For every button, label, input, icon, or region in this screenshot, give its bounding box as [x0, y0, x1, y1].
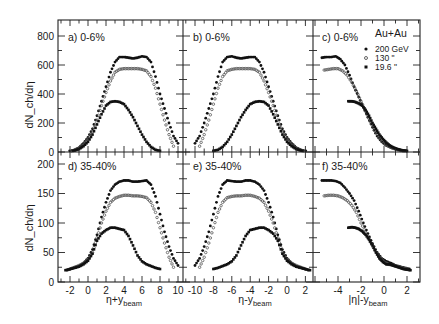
data-point	[100, 113, 103, 116]
legend-label-19: 19.6 "	[375, 62, 397, 72]
data-point	[157, 221, 160, 224]
data-point	[103, 214, 106, 217]
data-point	[206, 247, 209, 250]
data-point	[264, 76, 267, 79]
data-point	[243, 238, 246, 241]
data-point	[169, 259, 172, 262]
data-point	[108, 76, 111, 79]
data-point	[218, 208, 221, 211]
x-tick-label: -2	[264, 285, 273, 296]
data-point	[133, 247, 136, 250]
data-point	[347, 76, 350, 79]
data-point	[272, 113, 275, 116]
x-tick-label: 6	[139, 285, 145, 296]
data-point	[229, 136, 232, 139]
data-point	[231, 133, 234, 136]
data-point	[168, 245, 171, 248]
y-tick-label: 0	[48, 147, 54, 158]
data-point	[352, 84, 355, 87]
data-point	[168, 133, 171, 136]
y-axis-label-top: dN_ch/dη	[23, 81, 35, 128]
x-tick-label: 2	[404, 285, 410, 296]
data-point	[132, 244, 135, 247]
legend-marker-130-icon	[365, 57, 368, 60]
data-point	[214, 87, 217, 90]
data-point	[203, 133, 206, 136]
x-tick-label: 10	[172, 285, 184, 296]
panel-c-title: c) 0-6%	[322, 31, 358, 43]
data-point	[198, 145, 201, 148]
data-point	[214, 98, 217, 101]
data-point	[103, 206, 106, 209]
data-point	[284, 257, 287, 260]
data-point	[263, 189, 266, 192]
data-point	[261, 67, 264, 70]
data-point	[201, 137, 204, 140]
data-point	[345, 67, 348, 70]
data-point	[153, 83, 156, 86]
data-point	[264, 84, 267, 87]
panel-e-points	[194, 179, 312, 271]
data-point	[278, 244, 281, 247]
data-point	[106, 87, 109, 90]
data-point	[159, 93, 162, 96]
data-point	[266, 207, 269, 210]
data-point	[102, 100, 105, 103]
data-point	[141, 133, 144, 136]
data-point	[206, 124, 209, 127]
data-point	[278, 127, 281, 130]
data-point	[217, 211, 220, 214]
data-point	[220, 204, 223, 207]
data-point	[156, 216, 159, 219]
data-point	[218, 83, 221, 86]
data-point	[171, 263, 174, 266]
data-point	[108, 193, 111, 196]
system-label: Au+Au	[375, 27, 407, 39]
data-point	[171, 130, 174, 133]
y-tick-label: 100	[37, 218, 54, 229]
data-point	[130, 241, 133, 244]
data-point	[162, 225, 165, 228]
y-tick-label: 200	[37, 118, 54, 129]
data-point	[105, 210, 108, 213]
data-point	[270, 110, 273, 113]
data-point	[160, 97, 163, 100]
data-point	[240, 244, 243, 247]
data-point	[234, 128, 237, 131]
data-point	[204, 251, 207, 254]
panel-b-title: b) 0-6%	[193, 31, 230, 43]
data-point	[112, 74, 115, 77]
panel-e-title: e) 35-40%	[193, 160, 241, 172]
data-point	[209, 102, 212, 105]
data-point	[270, 211, 273, 214]
data-point	[177, 264, 180, 267]
data-point	[215, 201, 218, 204]
x-tick-label: -10	[188, 285, 203, 296]
data-point	[204, 240, 207, 243]
x-tick-label: 8	[157, 285, 163, 296]
data-point	[273, 109, 276, 112]
data-point	[273, 235, 276, 238]
data-point	[139, 130, 142, 133]
data-point	[211, 108, 214, 111]
data-point	[238, 247, 241, 250]
data-point	[266, 87, 269, 90]
data-point	[200, 263, 203, 266]
x-tick-label: -8	[209, 285, 218, 296]
data-point	[195, 262, 198, 265]
data-point	[175, 262, 178, 265]
data-point	[208, 119, 211, 122]
legend-marker-19-icon	[365, 66, 368, 69]
data-point	[358, 218, 361, 221]
data-point	[210, 97, 213, 100]
data-point	[374, 249, 377, 252]
data-point	[171, 253, 174, 256]
data-point	[203, 256, 206, 259]
data-point	[235, 125, 238, 128]
x-tick-label: 0	[284, 285, 290, 296]
data-point	[361, 225, 364, 228]
data-point	[243, 111, 246, 114]
data-point	[211, 232, 214, 235]
data-point	[91, 133, 94, 136]
data-point	[197, 137, 200, 140]
